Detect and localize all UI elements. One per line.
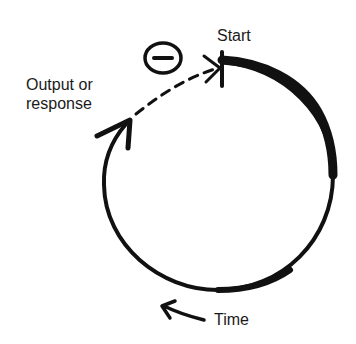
output-label: Output or response <box>26 75 136 113</box>
output-label-line2: response <box>26 94 136 113</box>
start-label: Start <box>217 26 251 45</box>
time-arrow-icon <box>162 301 204 320</box>
feedback-dashed-line <box>136 68 218 114</box>
time-label: Time <box>214 310 249 329</box>
output-label-line1: Output or <box>26 75 136 94</box>
loop-arc-thick <box>104 62 333 290</box>
feedback-loop-diagram <box>0 0 356 344</box>
